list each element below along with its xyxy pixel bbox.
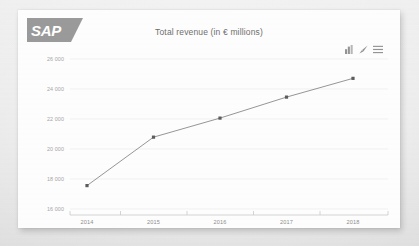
y-axis-tick-label: 16 000: [47, 206, 64, 212]
x-axis-tick-label: 2015: [147, 219, 160, 225]
data-point-marker[interactable]: [85, 184, 88, 187]
y-axis-tick-label: 26 000: [47, 56, 64, 62]
x-axis-tick-label: 2014: [81, 219, 94, 225]
x-axis-tick-labels: 20142015201620172018: [81, 219, 360, 225]
chart-plot-area: 16 00018 00020 00022 00024 00026 000 201…: [18, 10, 400, 228]
data-point-marker[interactable]: [351, 77, 354, 80]
series-polyline: [87, 78, 353, 185]
x-axis: [70, 211, 388, 215]
y-axis-tick-labels: 16 00018 00020 00022 00024 00026 000: [47, 56, 64, 212]
chart-card: SAP Total revenue (in € millions): [18, 10, 400, 228]
x-axis-tick-label: 2018: [347, 219, 360, 225]
data-point-marker[interactable]: [285, 96, 288, 99]
y-axis-tick-label: 20 000: [47, 146, 64, 152]
series-markers: [85, 77, 354, 187]
data-point-marker[interactable]: [218, 117, 221, 120]
y-axis-tick-label: 24 000: [47, 86, 64, 92]
x-axis-tick-label: 2017: [280, 219, 293, 225]
series-line: [87, 78, 353, 185]
y-axis-tick-label: 18 000: [47, 176, 64, 182]
data-point-marker[interactable]: [152, 136, 155, 139]
line-chart-svg: 16 00018 00020 00022 00024 00026 000 201…: [18, 10, 400, 228]
x-axis-tick-label: 2016: [214, 219, 227, 225]
y-axis-tick-label: 22 000: [47, 116, 64, 122]
